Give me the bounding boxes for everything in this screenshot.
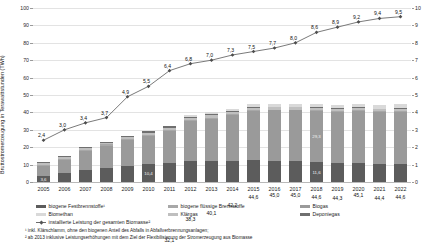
legend-label: installierte Leistung der gesamten Bioma… — [49, 219, 151, 226]
legend-swatch-icon — [300, 213, 310, 216]
y-axis-tick-left: 60 — [3, 75, 29, 81]
legend-item[interactable]: biogene flüssige Brennstoffe — [168, 203, 300, 210]
line-marker — [399, 15, 403, 19]
chart-container: Bruttostromerzeugung in Terawattstunden … — [0, 0, 442, 247]
line-data-label: 7,5 — [248, 44, 255, 50]
legend-item[interactable]: Klärgas — [168, 211, 300, 218]
line-marker — [231, 53, 235, 57]
y-axis-tick-left: 10 — [3, 162, 29, 168]
legend-swatch-icon — [300, 205, 310, 208]
y-axis-tick-right: 1 — [415, 162, 441, 168]
line-data-label: 5,5 — [143, 78, 150, 84]
x-axis-tick-2015: 2015 — [248, 186, 260, 192]
y-axis-tick-left: 50 — [3, 92, 29, 98]
gridline — [33, 182, 411, 183]
tick-mark — [412, 78, 415, 79]
line-marker — [84, 121, 88, 125]
line-data-label: 6,8 — [185, 56, 192, 62]
legend-swatch-icon — [36, 205, 46, 208]
tick-mark — [412, 95, 415, 96]
legend-label: Biogas — [313, 203, 329, 210]
line-data-label: 8,9 — [332, 19, 339, 25]
chart-legend: biogene Festbrennstoffe¹biogene flüssige… — [36, 203, 436, 226]
footnote-two: ² ab 2013 inklusive Leistungserhöhungen … — [25, 235, 437, 242]
legend-item[interactable]: Biogas — [300, 203, 436, 210]
line-data-label: 8,0 — [290, 35, 297, 41]
y-axis-tick-right: 7 — [415, 57, 441, 63]
x-axis-tick-2019: 2019 — [332, 186, 344, 192]
line-data-label: 6,4 — [164, 63, 171, 69]
x-axis-tick-2010: 2010 — [143, 186, 155, 192]
x-axis-tick-2006: 2006 — [59, 186, 71, 192]
line-data-label: 4,9 — [122, 89, 129, 95]
legend-item-line[interactable]: installierte Leistung der gesamten Bioma… — [36, 219, 168, 226]
line-marker — [210, 58, 214, 62]
x-axis-tick-2008: 2008 — [101, 186, 113, 192]
y-axis-tick-left: 0 — [3, 179, 29, 185]
legend-item[interactable]: Biomethan — [36, 211, 168, 218]
x-axis-tick-2014: 2014 — [227, 186, 239, 192]
legend-label: biogene flüssige Brennstoffe — [181, 203, 245, 210]
y-axis-tick-left: 90 — [3, 22, 29, 28]
x-axis-tick-2016: 2016 — [269, 186, 281, 192]
y-axis-tick-left: 20 — [3, 144, 29, 150]
x-axis-tick-2009: 2009 — [122, 186, 134, 192]
x-axis-tick-2005: 2005 — [38, 186, 50, 192]
tick-mark — [412, 25, 415, 26]
footnotes: ¹ inkl. Klärschlamm, ohne den biogenen A… — [25, 228, 437, 241]
line-marker — [336, 25, 340, 29]
tick-mark — [412, 8, 415, 9]
y-axis-tick-left: 40 — [3, 109, 29, 115]
legend-line-icon — [36, 221, 46, 224]
tick-mark — [412, 182, 415, 183]
y-axis-tick-right: 10 — [415, 5, 441, 11]
x-axis-tick-2013: 2013 — [206, 186, 218, 192]
line-data-label: 7,7 — [269, 40, 276, 46]
tick-mark — [30, 182, 33, 183]
line-data-label: 7,0 — [206, 52, 213, 58]
x-axis-tick-2021: 2021 — [374, 186, 386, 192]
y-axis-tick-right: 2 — [415, 144, 441, 150]
x-axis-tick-2020: 2020 — [353, 186, 365, 192]
line-data-label: 9,5 — [395, 9, 402, 15]
y-axis-tick-right: 6 — [415, 75, 441, 81]
y-axis-tick-right: 5 — [415, 92, 441, 98]
line-data-label: 3,7 — [101, 110, 108, 116]
line-marker — [63, 128, 67, 132]
y-axis-tick-left: 80 — [3, 40, 29, 46]
legend-label: Deponiegas — [313, 211, 340, 218]
y-axis-tick-right: 0 — [415, 179, 441, 185]
legend-swatch-icon — [168, 213, 178, 216]
footnote-one: ¹ inkl. Klärschlamm, ohne den biogenen A… — [25, 228, 437, 235]
legend-swatch-icon — [168, 205, 178, 208]
x-axis-tick-2007: 2007 — [80, 186, 92, 192]
tick-mark — [412, 147, 415, 148]
legend-label: Biomethan — [49, 211, 73, 218]
y-axis-tick-left: 100 — [3, 5, 29, 11]
y-axis-tick-right: 9 — [415, 22, 441, 28]
legend-item[interactable]: Deponiegas — [300, 211, 436, 218]
line-data-label: 8,6 — [311, 24, 318, 30]
y-axis-tick-left: 70 — [3, 57, 29, 63]
y-axis-tick-left: 30 — [3, 127, 29, 133]
legend-label: biogene Festbrennstoffe¹ — [49, 203, 106, 210]
y-axis-tick-right: 8 — [415, 40, 441, 46]
x-axis-tick-2022: 2022 — [395, 186, 407, 192]
line-marker — [357, 20, 361, 24]
line-marker — [252, 50, 256, 54]
line-marker — [315, 31, 319, 35]
x-axis-tick-2017: 2017 — [290, 186, 302, 192]
tick-mark — [412, 112, 415, 113]
line-data-label: 2,4 — [38, 132, 45, 138]
line-series — [33, 8, 411, 182]
tick-mark — [412, 43, 415, 44]
x-axis-tick-2011: 2011 — [164, 186, 175, 192]
plot-area: 0102030405060708090100012345678910 11,51… — [33, 8, 411, 182]
line-data-label: 7,3 — [227, 47, 234, 53]
legend-item[interactable]: biogene Festbrennstoffe¹ — [36, 203, 168, 210]
x-axis-tick-2018: 2018 — [311, 186, 323, 192]
y-axis-tick-right: 4 — [415, 109, 441, 115]
line-marker — [378, 17, 382, 21]
tick-mark — [412, 60, 415, 61]
tick-mark — [412, 130, 415, 131]
